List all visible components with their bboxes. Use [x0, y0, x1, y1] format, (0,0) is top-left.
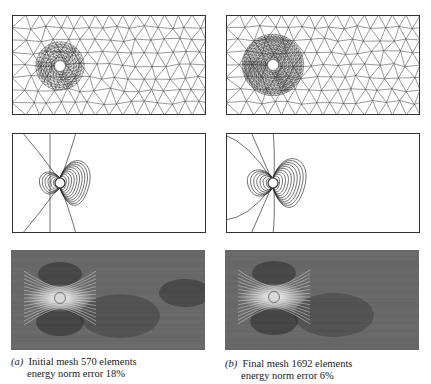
- panel-a-mesh: [12, 15, 206, 115]
- shaded-plot-final: [225, 250, 419, 350]
- panel-a-contour: [12, 133, 206, 233]
- caption-a-line2: energy norm error 18%: [11, 368, 137, 380]
- mesh-plot-initial: [12, 15, 206, 115]
- panel-a-shaded: [11, 250, 205, 350]
- caption-b-line2: energy norm error 6%: [225, 370, 352, 382]
- panel-b-shaded: [225, 250, 419, 350]
- caption-a: (a) Initial mesh 570 elements energy nor…: [11, 356, 137, 380]
- contour-plot-initial: [12, 133, 206, 233]
- panel-b-mesh: [226, 15, 420, 115]
- contour-plot-final: [226, 133, 420, 233]
- mesh-plot-final: [226, 15, 420, 115]
- caption-b-tag: (b): [225, 358, 237, 369]
- shaded-plot-initial: [11, 250, 205, 350]
- caption-a-line1: Initial mesh 570 elements: [29, 356, 137, 367]
- caption-a-tag: (a): [11, 356, 23, 367]
- caption-b: (b) Final mesh 1692 elements energy norm…: [225, 358, 352, 382]
- panel-b-contour: [226, 133, 420, 233]
- caption-b-line1: Final mesh 1692 elements: [243, 358, 353, 369]
